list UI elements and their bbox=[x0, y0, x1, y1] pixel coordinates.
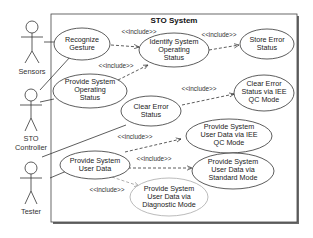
use-case-provide-operating[interactable]: Provide System Operating Status bbox=[53, 74, 127, 108]
use-case-label: User Data bbox=[79, 164, 111, 173]
use-case-label: Standard Mode bbox=[208, 173, 257, 182]
actor-label: STO bbox=[23, 134, 38, 143]
include-label: <<include>> bbox=[136, 155, 171, 162]
use-case-clear-error-qc[interactable]: Clear Error Status via IEE QC Mode bbox=[234, 75, 294, 111]
actor-sto-controller[interactable]: STO Controller bbox=[15, 89, 48, 152]
use-case-provide-user-standard[interactable]: Provide System User Data via Standard Mo… bbox=[192, 153, 274, 189]
actor-sensors[interactable]: Sensors bbox=[18, 21, 45, 76]
use-case-label: Status bbox=[80, 93, 101, 102]
use-case-identify-status[interactable]: Identify System Operating Status bbox=[139, 33, 209, 67]
use-case-label: Status bbox=[257, 43, 278, 52]
use-case-label: Gesture bbox=[69, 43, 95, 52]
use-case-provide-user-qc[interactable]: Provide System User Data via IEE QC Mode bbox=[186, 119, 272, 153]
use-case-label: Diagnostic Mode bbox=[142, 200, 196, 209]
actor-label: Controller bbox=[15, 143, 48, 152]
include-label: <<include>> bbox=[181, 85, 216, 92]
use-case-clear-error[interactable]: Clear Error Status bbox=[121, 96, 181, 126]
include-label: <<include>> bbox=[98, 62, 133, 69]
system-title: STO System bbox=[151, 16, 198, 25]
include-label: <<include>> bbox=[121, 28, 156, 35]
stick-figure-icon bbox=[20, 162, 42, 204]
actor-label: Tester bbox=[21, 207, 42, 216]
stick-figure-icon bbox=[20, 89, 42, 131]
use-case-diagram: STO System <<include>> <<include>> <<inc… bbox=[0, 0, 313, 238]
use-case-label: Status bbox=[164, 53, 185, 62]
use-case-recognize-gesture[interactable]: Recognize Gesture bbox=[54, 28, 110, 60]
include-label: <<include>> bbox=[117, 133, 152, 140]
use-case-provide-user-data[interactable]: Provide System User Data bbox=[60, 151, 130, 179]
include-label: <<include>> bbox=[89, 186, 124, 193]
use-case-label: QC Mode bbox=[249, 95, 280, 104]
include-label: <<include>> bbox=[201, 31, 236, 38]
use-case-label: QC Mode bbox=[214, 138, 245, 147]
actor-tester[interactable]: Tester bbox=[20, 162, 42, 216]
stick-figure-icon bbox=[21, 21, 43, 63]
use-case-store-error[interactable]: Store Error Status bbox=[240, 29, 294, 59]
use-case-label: Status bbox=[141, 110, 162, 119]
use-case-provide-user-diagnostic[interactable]: Provide System User Data via Diagnostic … bbox=[130, 178, 208, 216]
actor-label: Sensors bbox=[18, 67, 45, 76]
